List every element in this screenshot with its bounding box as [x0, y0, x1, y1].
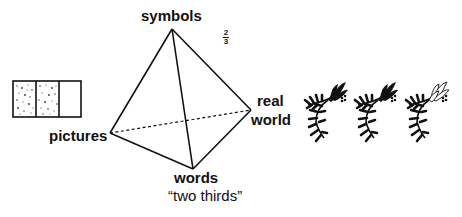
vertex-label-real: real — [257, 93, 284, 109]
fraction-numerator: 2 — [224, 28, 228, 37]
diagram-canvas — [0, 0, 462, 217]
edge-words-realworld — [193, 110, 251, 169]
fraction-symbol: 2 3 — [222, 29, 230, 46]
vertex-label-symbols: symbols — [141, 8, 202, 24]
fraction-bar-picture — [13, 81, 81, 117]
edge-pictures-words — [110, 133, 193, 169]
vertex-label-pictures: pictures — [49, 128, 107, 144]
real-world-flower-1 — [305, 82, 348, 141]
edge-pictures-realworld-hidden — [110, 110, 251, 133]
edge-symbols-realworld — [172, 29, 251, 110]
tetrahedron — [110, 29, 251, 169]
vertex-label-world: world — [251, 112, 291, 128]
fraction-denominator: 3 — [224, 37, 228, 46]
real-world-flower-3-highlighted — [406, 82, 449, 141]
edge-symbols-pictures — [110, 29, 172, 133]
caption-two-thirds: “two thirds” — [168, 188, 242, 204]
edge-symbols-words — [172, 29, 193, 169]
real-world-flower-2 — [355, 82, 398, 141]
vertex-label-words: words — [174, 170, 218, 186]
